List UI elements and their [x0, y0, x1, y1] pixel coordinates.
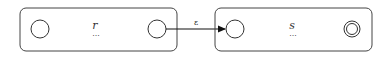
- machine-r-ellipsis: ...: [92, 29, 100, 38]
- epsilon-transition: ε: [166, 18, 225, 29]
- nfa-diagram: r ... ε s ...: [0, 0, 390, 58]
- machine-s: s ...: [215, 8, 372, 51]
- machine-s-ellipsis: ...: [289, 29, 297, 38]
- transition-label: ε: [194, 18, 198, 27]
- s-start-state: [226, 20, 244, 38]
- machine-r: r ...: [20, 8, 177, 51]
- r-final-state: [148, 20, 166, 38]
- r-start-state: [31, 20, 49, 38]
